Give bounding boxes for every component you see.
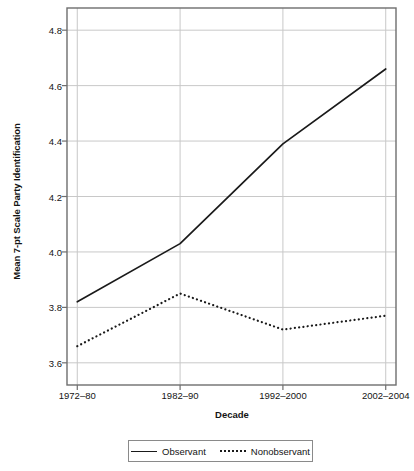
chart-figure: Mean 7-pt Scale Party Identification 3.6… [0,0,414,471]
y-axis-title: Mean 7-pt Scale Party Identification [11,82,22,322]
legend-item-nonobservant: Nonobservant [220,446,310,457]
legend-label-observant: Observant [162,446,206,457]
series-line-nonobservant [77,294,385,347]
x-axis-title: Decade [67,409,397,420]
series-line-observant [77,69,385,302]
legend-label-nonobservant: Nonobservant [251,446,310,457]
y-axis-tick-labels: 3.63.84.04.24.44.64.8 [22,0,62,471]
y-axis-tick-label: 4.8 [49,25,62,36]
legend-item-observant: Observant [131,446,206,457]
x-axis-tick-label: 1992–2000 [259,390,307,401]
y-axis-tick-label: 3.8 [49,302,62,313]
y-axis-tick-label: 4.6 [49,80,62,91]
chart-legend: Observant Nonobservant [128,440,313,462]
y-axis-tick-label: 4.4 [49,136,62,147]
x-axis-tick-label: 2002–2004 [362,390,410,401]
solid-line-icon [131,451,157,452]
x-axis-tick-label: 1982–90 [162,390,199,401]
y-axis-tick-label: 3.6 [49,357,62,368]
y-axis-tick-label: 4.0 [49,246,62,257]
x-axis-tick-label: 1972–80 [59,390,96,401]
dotted-line-icon [220,450,246,452]
y-axis-tick-label: 4.2 [49,191,62,202]
